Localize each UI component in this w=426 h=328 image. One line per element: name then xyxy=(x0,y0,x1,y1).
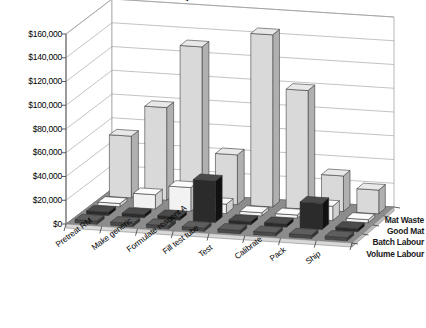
x-axis-labels: Pretreat RMMake genericFormulate reagent… xyxy=(0,0,426,328)
series-label: Good Mat xyxy=(332,226,424,237)
chart-root: Activity Cost Breakdown $160,000$140,000… xyxy=(0,0,426,328)
series-label: Volume Labour xyxy=(332,249,424,260)
series-legend: Mat WasteGood MatBatch LabourVolume Labo… xyxy=(332,215,424,260)
series-label: Batch Labour xyxy=(332,237,424,248)
x-axis-category-label: Pretreat RM xyxy=(54,216,94,249)
x-axis-category-label: Ship xyxy=(304,249,322,266)
x-axis-category-label: Test xyxy=(197,243,214,259)
x-axis-category-label: Fill test tube xyxy=(161,224,201,257)
series-label: Mat Waste xyxy=(332,215,424,226)
x-axis-category-label: Pack xyxy=(268,246,288,264)
x-axis-category-label: Calibrate xyxy=(233,235,264,261)
